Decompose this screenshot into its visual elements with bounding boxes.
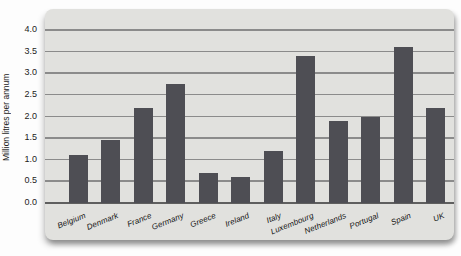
y-axis-tick-labels: 4.03.53.02.52.01.51.00.50.0 <box>0 9 41 240</box>
bar-uk <box>426 108 445 203</box>
bar-france <box>134 108 153 203</box>
x-category-label: Portugal <box>349 211 381 231</box>
bar-germany <box>166 84 185 203</box>
bar-greece <box>199 173 218 203</box>
bar-italy <box>264 151 283 203</box>
bar-netherlands <box>329 121 348 203</box>
gridline <box>45 137 454 139</box>
y-tick-label: 1.5 <box>24 132 37 142</box>
x-category-label: Denmark <box>86 211 120 232</box>
y-tick-label: 0.5 <box>24 175 37 185</box>
x-category-label: France <box>125 211 152 229</box>
x-category-label: Spain <box>390 211 413 227</box>
gridline <box>45 116 454 118</box>
bar-ireland <box>231 177 250 203</box>
y-tick-label: 1.0 <box>24 154 37 164</box>
x-category-label: Belgium <box>57 211 88 230</box>
x-category-label: Greece <box>189 211 217 229</box>
bar-denmark <box>101 140 120 203</box>
bar-spain <box>394 47 413 203</box>
y-tick-label: 2.0 <box>24 111 37 121</box>
gridline <box>45 29 454 31</box>
gridline <box>45 72 454 74</box>
x-category-label: Ireland <box>223 211 250 229</box>
y-tick-label: 3.5 <box>24 46 37 56</box>
gridline <box>45 94 454 96</box>
gridline <box>45 51 454 53</box>
x-category-label: UK <box>431 211 445 224</box>
chart-root: Million litres per annum 4.03.53.02.52.0… <box>0 0 461 256</box>
y-tick-label: 4.0 <box>24 24 37 34</box>
y-tick-label: 2.5 <box>24 89 37 99</box>
x-category-label: Germany <box>150 211 185 232</box>
bar-belgium <box>69 155 88 203</box>
chart-panel: BelgiumDenmarkFranceGermanyGreeceIreland… <box>45 9 454 240</box>
y-tick-label: 3.0 <box>24 67 37 77</box>
bar-portugal <box>361 117 380 204</box>
y-tick-label: 0.0 <box>24 197 37 207</box>
bar-luxembourg <box>296 56 315 203</box>
